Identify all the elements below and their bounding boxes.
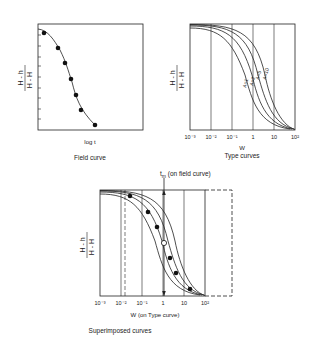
type-ylabel: H - h H - H xyxy=(169,65,185,91)
superimposed-panel xyxy=(100,178,232,296)
field-xlabel: log t xyxy=(84,139,96,145)
field-ylabel: H - h H - H xyxy=(17,65,33,91)
type-caption: Type curves xyxy=(224,152,260,160)
svg-text:H - h: H - h xyxy=(17,70,24,85)
type-curves-panel xyxy=(190,24,295,130)
svg-text:1: 1 xyxy=(161,300,164,306)
field-curve-panel xyxy=(38,24,143,130)
svg-text:10⁻³: 10⁻³ xyxy=(185,134,196,140)
svg-text:10: 10 xyxy=(181,300,187,306)
svg-text:10: 10 xyxy=(271,134,277,140)
superimposed-ylabel: H - h H - H xyxy=(79,232,95,258)
svg-text:H - h: H - h xyxy=(169,70,176,85)
svg-text:10⁻²: 10⁻² xyxy=(116,300,127,306)
svg-text:10⁻¹: 10⁻¹ xyxy=(137,300,148,306)
svg-text:A=10: A=10 xyxy=(261,67,270,80)
superimposed-caption: Superimposed curves xyxy=(89,327,153,335)
svg-text:10⁻²: 10⁻² xyxy=(206,134,217,140)
svg-text:H - h: H - h xyxy=(79,237,86,252)
field-caption: Field curve xyxy=(74,154,106,161)
superimposed-xlabel: W (on Type curve) xyxy=(131,312,180,318)
figure: H - h H - H log t Field curve A=1 A=2 A=… xyxy=(0,0,315,337)
svg-text:10⁻¹: 10⁻¹ xyxy=(227,134,238,140)
svg-text:10²: 10² xyxy=(201,300,209,306)
field-data-points xyxy=(42,31,98,128)
svg-text:1: 1 xyxy=(251,134,254,140)
svg-text:H - H: H - H xyxy=(26,72,33,88)
svg-text:H - H: H - H xyxy=(178,72,185,88)
superimposed-ticks: 10⁻³10⁻² 10⁻¹1 1010² xyxy=(95,300,210,306)
type-xlabel: W xyxy=(239,145,245,151)
svg-text:10⁻³: 10⁻³ xyxy=(95,300,106,306)
svg-text:10²: 10² xyxy=(291,134,299,140)
type-ticks: 10⁻³10⁻² 10⁻¹1 1010² xyxy=(185,134,300,140)
svg-text:H - H: H - H xyxy=(88,239,95,255)
tm-annotation: tm (on field curve) xyxy=(160,170,211,179)
